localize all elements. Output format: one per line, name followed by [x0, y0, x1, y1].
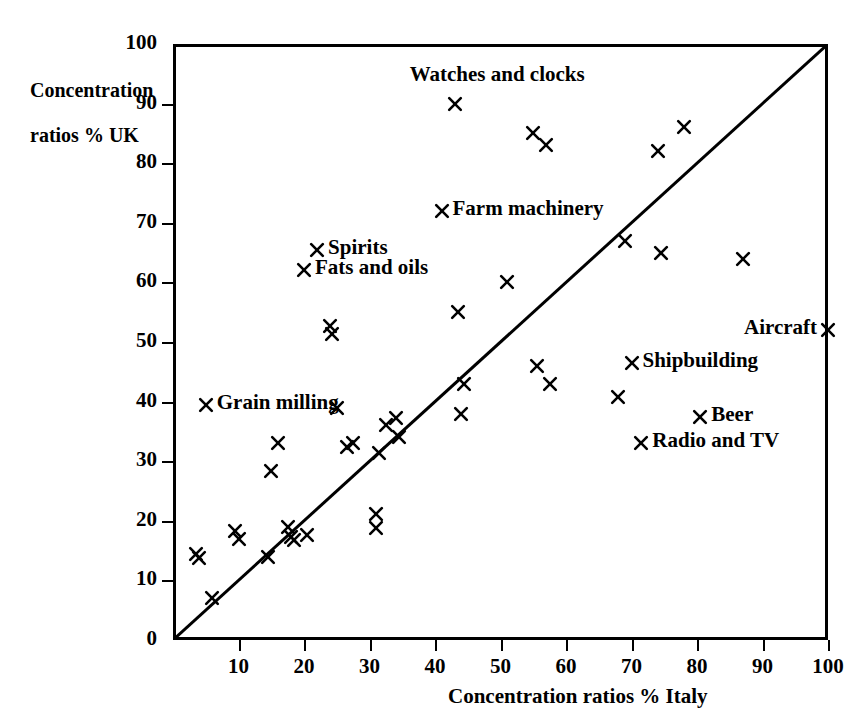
- y-tick-label: 60: [97, 268, 157, 293]
- data-point-marker: [391, 429, 407, 445]
- data-point-marker: [542, 376, 558, 392]
- data-point-marker: [453, 406, 469, 422]
- data-point-marker: [260, 549, 276, 565]
- y-tick-label: 10: [97, 566, 157, 591]
- data-point-marker: [280, 519, 296, 535]
- data-point-marker: [263, 463, 279, 479]
- data-point-marker: [322, 318, 338, 334]
- point-annotation-label: Grain milling: [217, 390, 339, 415]
- x-tick-label: 50: [471, 654, 531, 679]
- data-point-marker: [447, 96, 463, 112]
- data-point-marker: [368, 506, 384, 522]
- data-point-marker: [450, 304, 466, 320]
- y-axis-tick: [162, 521, 173, 523]
- data-point-marker: [345, 435, 361, 451]
- y-axis-tick: [162, 163, 173, 165]
- data-point-marker: [633, 435, 649, 451]
- data-point-marker: [653, 245, 669, 261]
- x-tick-label: 80: [667, 654, 727, 679]
- data-point-marker: [198, 397, 214, 413]
- x-tick-label: 20: [274, 654, 334, 679]
- x-tick-label: 70: [602, 654, 662, 679]
- x-axis-title: Concentration ratios % Italy: [448, 684, 708, 709]
- data-point-marker: [368, 520, 384, 536]
- y-axis-tick: [162, 223, 173, 225]
- data-point-marker: [378, 417, 394, 433]
- y-tick-label: 20: [97, 507, 157, 532]
- y-axis-tick: [162, 282, 173, 284]
- data-point-marker: [204, 590, 220, 606]
- y-axis-title-line2: ratios % UK: [30, 124, 139, 146]
- plot-area: [173, 44, 828, 640]
- scatter-plot-figure: Concentration ratios % UK Concentration …: [0, 0, 856, 723]
- data-point-marker: [676, 119, 692, 135]
- data-point-marker: [499, 274, 515, 290]
- data-point-marker: [692, 409, 708, 425]
- y-tick-label: 80: [97, 149, 157, 174]
- y-tick-label: 90: [97, 90, 157, 115]
- x-axis-tick: [763, 640, 765, 651]
- point-annotation-label: Fats and oils: [315, 255, 428, 280]
- y-axis-tick: [162, 104, 173, 106]
- diagonal-reference-line: [173, 44, 828, 640]
- x-axis-tick: [239, 640, 241, 651]
- data-point-marker: [296, 262, 312, 278]
- data-point-marker: [529, 358, 545, 374]
- data-point-marker: [270, 435, 286, 451]
- data-point-marker: [610, 389, 626, 405]
- point-annotation-label: Farm machinery: [453, 196, 604, 221]
- data-point-marker: [538, 137, 554, 153]
- y-axis-tick: [162, 461, 173, 463]
- y-tick-label: 30: [97, 447, 157, 472]
- x-tick-label: 10: [209, 654, 269, 679]
- data-point-marker: [299, 527, 315, 543]
- point-annotation-label: Shipbuilding: [643, 348, 759, 373]
- data-point-marker: [371, 445, 387, 461]
- data-point-marker: [227, 523, 243, 539]
- x-axis-tick: [435, 640, 437, 651]
- x-axis-tick: [370, 640, 372, 651]
- y-tick-label: 50: [97, 328, 157, 353]
- y-axis-tick: [162, 342, 173, 344]
- data-point-marker: [624, 355, 640, 371]
- x-axis-tick: [304, 640, 306, 651]
- x-axis-tick: [501, 640, 503, 651]
- data-point-marker: [339, 439, 355, 455]
- y-tick-label: 70: [97, 209, 157, 234]
- x-axis-tick: [828, 640, 830, 651]
- data-point-marker: [188, 546, 204, 562]
- data-point-marker: [735, 251, 751, 267]
- point-annotation-label: Aircraft: [744, 315, 817, 340]
- x-tick-label: 30: [340, 654, 400, 679]
- y-tick-label: 40: [97, 388, 157, 413]
- data-point-marker: [456, 376, 472, 392]
- data-point-marker: [650, 143, 666, 159]
- data-point-marker: [286, 532, 302, 548]
- data-point-marker: [283, 529, 299, 545]
- point-annotation-label: Watches and clocks: [410, 62, 585, 87]
- data-point-marker: [525, 125, 541, 141]
- point-annotation-label: Radio and TV: [652, 428, 779, 453]
- data-point-marker: [231, 531, 247, 547]
- data-point-marker: [820, 322, 836, 338]
- y-tick-label: 0: [97, 626, 157, 651]
- y-axis-tick: [162, 402, 173, 404]
- point-annotation-label: Beer: [711, 402, 753, 427]
- x-tick-label: 60: [536, 654, 596, 679]
- data-point-marker: [324, 326, 340, 342]
- x-axis-tick: [632, 640, 634, 651]
- x-axis-tick: [566, 640, 568, 651]
- data-point-marker: [388, 410, 404, 426]
- data-point-marker: [191, 550, 207, 566]
- x-tick-label: 40: [405, 654, 465, 679]
- x-tick-label: 90: [733, 654, 793, 679]
- y-tick-label: 100: [97, 30, 157, 55]
- x-axis-tick: [697, 640, 699, 651]
- data-point-marker: [617, 233, 633, 249]
- x-tick-label: 100: [798, 654, 856, 679]
- y-axis-tick: [162, 580, 173, 582]
- data-point-marker: [434, 203, 450, 219]
